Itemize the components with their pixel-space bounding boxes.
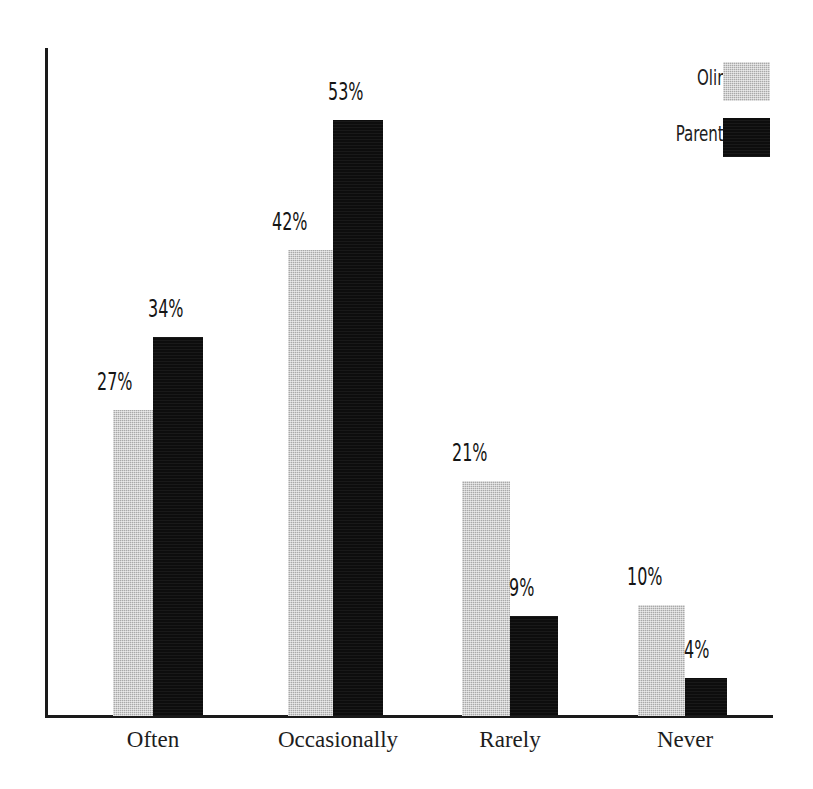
bar-label-rarely-olim: 21% [452,441,488,465]
bar-often-olim[interactable] [113,410,153,716]
bar-label-often-olim: 27% [97,370,133,394]
x-axis-label-occasionally: Occasionally [258,726,418,754]
bar-label-never-parents: 4% [684,638,709,662]
bar-label-often-parents: 34% [148,297,184,321]
legend: Olim Parents [600,55,800,170]
x-axis-label-never: Never [625,726,745,754]
legend-item-olim[interactable]: Olim [600,62,800,102]
legend-item-parents[interactable]: Parents [600,118,800,158]
bar-chart: 27% 34% 42% 53% 21% 9% 10% 4% Often Occa… [0,0,813,789]
bar-label-occasionally-parents: 53% [328,80,364,104]
bar-label-never-olim: 10% [627,565,663,589]
bar-label-rarely-parents: 9% [509,576,534,600]
x-axis-label-often: Often [98,726,208,754]
bar-occasionally-olim[interactable] [288,250,333,716]
bar-never-parents[interactable] [685,678,727,716]
bar-label-occasionally-olim: 42% [272,210,308,234]
bar-never-olim[interactable] [638,605,685,716]
legend-swatch-parents [723,118,770,157]
bar-rarely-parents[interactable] [510,616,558,716]
legend-swatch-olim [723,62,770,101]
bar-often-parents[interactable] [153,337,203,716]
x-axis-label-rarely: Rarely [450,726,570,754]
bar-occasionally-parents[interactable] [333,120,383,716]
bar-rarely-olim[interactable] [462,481,510,716]
